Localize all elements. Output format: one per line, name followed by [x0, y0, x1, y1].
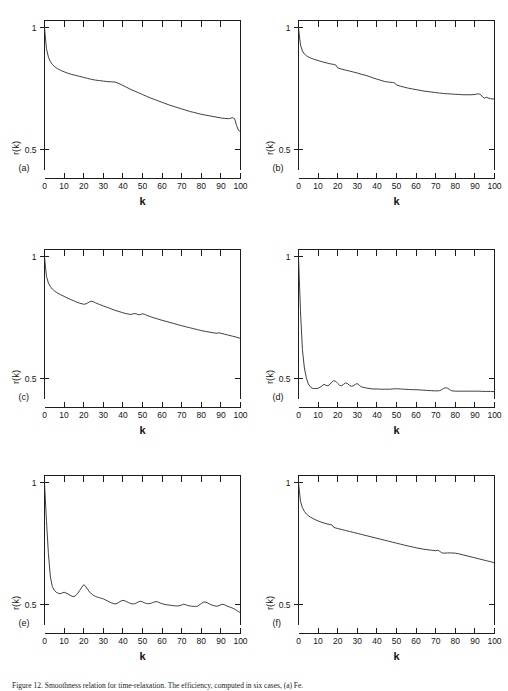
x-tick-label: 10: [313, 410, 323, 420]
x-tick-label: 20: [333, 181, 343, 191]
y-tick-label: 1: [286, 478, 291, 488]
x-tick-label: 20: [333, 410, 343, 420]
x-tick-label: 80: [451, 636, 461, 646]
y-tick-label: 1: [286, 23, 291, 33]
panel-letter: (d): [273, 392, 284, 402]
x-tick-label: 20: [79, 636, 89, 646]
chart-panel-e: 0.510102030405060708090100kr(k)(e): [0, 455, 254, 685]
x-tick-label: 90: [216, 636, 226, 646]
plot-frame: [299, 476, 495, 625]
y-axis-title: r(k): [264, 141, 275, 155]
data-curve: [299, 483, 495, 563]
x-tick-label: 60: [411, 636, 421, 646]
data-curve: [299, 28, 495, 99]
chart-panel-c: 0.510102030405060708090100kr(k)(c): [0, 229, 254, 459]
x-tick-label: 30: [99, 636, 109, 646]
y-tick-label: 0.5: [25, 374, 37, 384]
plot-b: 0.510102030405060708090100kr(k)(b): [254, 0, 508, 230]
x-tick-label: 40: [372, 181, 382, 191]
x-tick-label: 0: [296, 181, 301, 191]
x-tick-label: 30: [99, 410, 109, 420]
x-tick-label: 20: [79, 181, 89, 191]
x-tick-label: 70: [177, 181, 187, 191]
x-tick-label: 90: [216, 181, 226, 191]
x-tick-label: 40: [372, 410, 382, 420]
y-tick-label: 0.5: [279, 600, 291, 610]
x-tick-label: 10: [59, 410, 69, 420]
x-tick-label: 0: [42, 636, 47, 646]
x-tick-label: 50: [138, 410, 148, 420]
x-tick-label: 80: [197, 636, 207, 646]
x-tick-label: 70: [431, 636, 441, 646]
y-tick-label: 0.5: [25, 600, 37, 610]
plot-f: 0.510102030405060708090100kr(k)(f): [254, 455, 508, 685]
plot-frame: [299, 250, 495, 399]
y-axis-title: r(k): [10, 596, 21, 610]
x-tick-label: 100: [233, 181, 247, 191]
x-tick-label: 0: [42, 181, 47, 191]
panel-letter: (f): [273, 618, 282, 628]
plot-e: 0.510102030405060708090100kr(k)(e): [0, 455, 254, 685]
chart-panel-f: 0.510102030405060708090100kr(k)(f): [254, 455, 508, 685]
x-tick-label: 80: [197, 181, 207, 191]
panel-letter: (e): [19, 618, 30, 628]
figure-caption: Figure 12. Smoothness relation for time-…: [12, 681, 504, 691]
plot-c: 0.510102030405060708090100kr(k)(c): [0, 229, 254, 459]
x-tick-label: 50: [392, 410, 402, 420]
y-tick-label: 1: [32, 252, 37, 262]
x-tick-label: 20: [79, 410, 89, 420]
chart-panel-b: 0.510102030405060708090100kr(k)(b): [254, 0, 508, 230]
x-tick-label: 40: [118, 636, 128, 646]
x-axis-title: k: [139, 195, 146, 207]
x-tick-label: 60: [157, 636, 167, 646]
x-tick-label: 10: [59, 181, 69, 191]
x-tick-label: 80: [451, 410, 461, 420]
x-axis-title: k: [139, 650, 146, 662]
x-tick-label: 30: [99, 181, 109, 191]
y-tick-label: 0.5: [279, 374, 291, 384]
x-tick-label: 0: [42, 410, 47, 420]
x-tick-label: 90: [216, 410, 226, 420]
x-tick-label: 50: [392, 636, 402, 646]
x-tick-label: 40: [118, 410, 128, 420]
panel-letter: (b): [273, 163, 284, 173]
chart-panel-d: 0.510102030405060708090100kr(k)(d): [254, 229, 508, 459]
panel-letter: (a): [19, 163, 30, 173]
y-axis-title: r(k): [264, 596, 275, 610]
x-tick-label: 100: [487, 181, 501, 191]
x-tick-label: 0: [296, 410, 301, 420]
x-tick-label: 60: [157, 410, 167, 420]
chart-panel-a: 0.510102030405060708090100kr(k)(a): [0, 0, 254, 230]
x-tick-label: 30: [353, 636, 363, 646]
x-tick-label: 50: [138, 636, 148, 646]
x-tick-label: 100: [487, 410, 501, 420]
x-tick-label: 30: [353, 181, 363, 191]
y-tick-label: 1: [286, 252, 291, 262]
x-tick-label: 10: [59, 636, 69, 646]
x-axis-title: k: [393, 650, 400, 662]
x-tick-label: 60: [411, 410, 421, 420]
x-tick-label: 40: [118, 181, 128, 191]
panel-letter: (c): [19, 392, 30, 402]
y-tick-label: 1: [32, 23, 37, 33]
x-tick-label: 100: [487, 636, 501, 646]
x-tick-label: 90: [470, 410, 480, 420]
y-axis-title: r(k): [10, 370, 21, 384]
x-tick-label: 50: [138, 181, 148, 191]
y-axis-title: r(k): [10, 141, 21, 155]
data-curve: [45, 28, 241, 132]
x-tick-label: 90: [470, 181, 480, 191]
x-tick-label: 70: [177, 636, 187, 646]
x-axis-title: k: [393, 424, 400, 436]
x-tick-label: 60: [411, 181, 421, 191]
x-tick-label: 80: [451, 181, 461, 191]
x-tick-label: 80: [197, 410, 207, 420]
x-tick-label: 70: [431, 181, 441, 191]
plot-frame: [45, 250, 241, 399]
y-tick-label: 0.5: [25, 145, 37, 155]
x-axis-title: k: [393, 195, 400, 207]
x-axis-title: k: [139, 424, 146, 436]
data-curve: [299, 257, 495, 392]
x-tick-label: 40: [372, 636, 382, 646]
